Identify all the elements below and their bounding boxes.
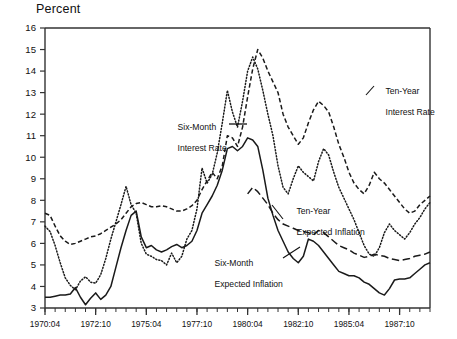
annotation-line-1: Ten-Year [385, 86, 419, 96]
svg-text:13: 13 [25, 87, 36, 98]
annotation-line-2: Expected Inflation [215, 279, 283, 289]
annotation-line-2: Expected Inflation [297, 227, 365, 237]
annotation-six-month-interest-rate: Six-Month Interest Rate [168, 112, 227, 164]
svg-text:14: 14 [25, 65, 36, 76]
svg-text:8: 8 [31, 195, 36, 206]
svg-text:1987:10: 1987:10 [384, 319, 415, 329]
svg-text:16: 16 [25, 22, 36, 33]
annotation-line-1: Six-Month [215, 258, 254, 268]
y-axis-ticks: 345678910111213141516 [25, 22, 45, 313]
svg-text:5: 5 [31, 259, 36, 270]
svg-text:3: 3 [31, 302, 36, 313]
svg-text:1972:10: 1972:10 [81, 319, 112, 329]
svg-text:1970:04: 1970:04 [30, 319, 61, 329]
svg-text:1982:10: 1982:10 [283, 319, 314, 329]
annotation-line-1: Ten-Year [296, 206, 330, 216]
svg-text:10: 10 [25, 152, 36, 163]
svg-text:1977:10: 1977:10 [182, 319, 213, 329]
svg-text:9: 9 [31, 173, 36, 184]
annotation-six-month-expected-inflation: Six-Month Expected Inflation [205, 248, 283, 300]
series-line [45, 50, 430, 245]
annotation-line-2: Interest Rate [178, 143, 227, 153]
annotation-line-2: Interest Rate [386, 107, 435, 117]
chart-container: Percent 345678910111213141516 1970:04197… [0, 0, 457, 339]
svg-text:1980:04: 1980:04 [232, 319, 263, 329]
x-axis-ticks: 1970:041972:101975:041977:101980:041982:… [30, 308, 430, 329]
svg-text:11: 11 [26, 130, 36, 141]
svg-text:6: 6 [31, 238, 36, 249]
svg-text:1985:04: 1985:04 [334, 319, 365, 329]
svg-text:1975:04: 1975:04 [131, 319, 162, 329]
svg-text:15: 15 [25, 44, 36, 55]
annotation-line-1: Six-Month [178, 122, 217, 132]
svg-text:12: 12 [25, 109, 36, 120]
annotation-ten-year-expected-inflation: Ten-Year Expected Inflation [287, 196, 365, 248]
svg-text:7: 7 [31, 216, 36, 227]
svg-text:4: 4 [31, 281, 37, 292]
annotation-ten-year-interest-rate: Ten-Year Interest Rate [376, 76, 435, 128]
